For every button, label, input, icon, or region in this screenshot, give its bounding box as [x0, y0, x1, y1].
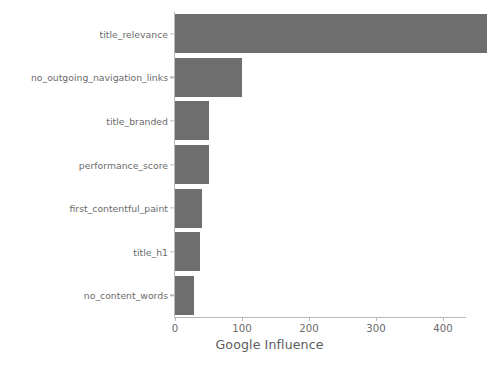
bar-title_h1 [175, 232, 200, 271]
bar-fill [175, 276, 194, 315]
bar-title_branded [175, 101, 209, 140]
bar-fill [175, 58, 242, 97]
x-axis-spine [174, 317, 466, 318]
bar-fill [175, 145, 209, 184]
bar-no_content_words [175, 276, 194, 315]
y-tick-mark [170, 33, 174, 34]
y-tick-mark [170, 251, 174, 252]
y-tick-label-title_branded: title_branded [0, 115, 168, 126]
y-tick-mark [170, 207, 174, 208]
x-axis-title: Google Influence [0, 337, 473, 352]
y-tick-mark [170, 164, 174, 165]
x-tick-mark [309, 317, 310, 321]
y-tick-mark [170, 120, 174, 121]
bar-fill [175, 101, 209, 140]
bar-title_relevance [175, 14, 487, 53]
x-tick-label-100: 100 [232, 323, 251, 334]
y-tick-label-first_contentful_paint: first_contentful_paint [0, 203, 168, 214]
y-tick-mark [170, 295, 174, 296]
bar-no_outgoing_navigation_links [175, 58, 242, 97]
bar-first_contentful_paint [175, 189, 202, 228]
bar-fill [175, 14, 487, 53]
x-tick-mark [443, 317, 444, 321]
bar-fill [175, 232, 200, 271]
x-tick-label-300: 300 [366, 323, 385, 334]
x-tick-mark [175, 317, 176, 321]
x-tick-label-200: 200 [299, 323, 318, 334]
x-tick-mark [376, 317, 377, 321]
x-tick-label-400: 400 [433, 323, 452, 334]
y-tick-label-no_outgoing_navigation_links: no_outgoing_navigation_links [0, 72, 168, 83]
y-tick-label-title_h1: title_h1 [0, 246, 168, 257]
x-tick-mark [242, 317, 243, 321]
y-tick-mark [170, 77, 174, 78]
bar-performance_score [175, 145, 209, 184]
y-tick-label-no_content_words: no_content_words [0, 290, 168, 301]
x-axis-title-text: Google Influence [215, 337, 323, 352]
y-tick-label-title_relevance: title_relevance [0, 28, 168, 39]
bar-fill [175, 189, 202, 228]
y-tick-label-performance_score: performance_score [0, 159, 168, 170]
x-tick-label-0: 0 [172, 323, 178, 334]
